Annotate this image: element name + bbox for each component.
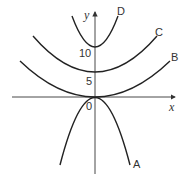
parabola-diagram: A B C D y x 0 5 10 <box>0 0 187 179</box>
origin-label: 0 <box>86 100 92 112</box>
y-tick-10: 10 <box>79 47 91 59</box>
y-axis-label: y <box>83 8 90 22</box>
y-tick-5: 5 <box>86 75 92 87</box>
curve-label-d: D <box>117 5 125 17</box>
curve-label-a: A <box>133 158 141 170</box>
curve-label-c: C <box>155 26 163 38</box>
curve-label-b: B <box>171 51 178 63</box>
x-axis-label: x <box>168 100 175 114</box>
